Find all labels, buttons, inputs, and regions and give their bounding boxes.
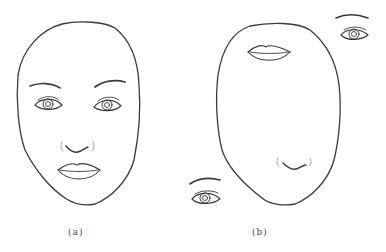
eye-bottom-left-b — [190, 178, 220, 203]
panel-label-b: (b) — [252, 227, 268, 237]
face-outline-b — [217, 23, 341, 205]
nose-a — [61, 142, 94, 152]
eye-left-a — [35, 97, 62, 110]
lips-b — [248, 46, 290, 61]
eyebrow-right-a — [95, 81, 125, 87]
figure-canvas — [0, 0, 386, 252]
panel-label-a: (a) — [68, 227, 83, 237]
lips-a — [58, 164, 100, 179]
eye-right-a — [94, 97, 121, 111]
face-outline-a — [17, 22, 139, 205]
eye-top-right-b — [336, 15, 368, 40]
nose-b — [277, 158, 311, 169]
eyebrow-left-a — [30, 84, 60, 88]
